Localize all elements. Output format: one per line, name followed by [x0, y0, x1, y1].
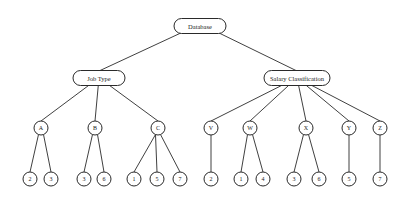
node-Z: Z [373, 121, 387, 135]
tree-nodes: DatabaseJob TypeSalary ClassificationABC… [23, 19, 387, 187]
edge-salary-classification-W [250, 86, 289, 122]
edge-job-type-B [95, 86, 98, 122]
edge-B-leaf-2 [84, 135, 93, 173]
tree-edges [30, 32, 380, 173]
node-label: 6 [103, 176, 106, 182]
edge-X-leaf-10 [294, 135, 304, 173]
node-label: 5 [348, 176, 351, 182]
edge-salary-classification-X [299, 86, 306, 122]
leaf-node: 6 [312, 172, 326, 186]
node-label: 4 [262, 176, 265, 182]
leaf-node: 2 [204, 172, 218, 186]
leaf-node: 2 [23, 172, 37, 186]
node-label: X [304, 125, 309, 131]
node-label: Z [378, 125, 382, 131]
edge-C-leaf-5 [156, 135, 158, 173]
node-W: W [243, 121, 257, 135]
leaf-node: 3 [44, 172, 58, 186]
node-B: B [88, 121, 102, 135]
node-Y: Y [342, 121, 356, 135]
node-label: 3 [83, 176, 86, 182]
edge-job-type-C [110, 86, 158, 122]
node-label: Y [347, 125, 352, 131]
node-label: 7 [179, 176, 182, 182]
edge-salary-classification-V [211, 86, 282, 122]
node-label: 2 [29, 176, 32, 182]
node-label: 1 [240, 176, 243, 182]
node-job-type: Job Type [73, 71, 125, 86]
edge-database-salary-classification [216, 32, 297, 72]
leaf-node: 4 [256, 172, 270, 186]
leaf-node: 3 [287, 172, 301, 186]
node-label: 6 [318, 176, 321, 182]
node-label: B [93, 125, 97, 131]
node-X: X [299, 121, 313, 135]
node-database: Database [174, 19, 226, 34]
node-salary-classification: Salary Classification [264, 71, 330, 86]
node-label: 7 [379, 176, 382, 182]
node-V: V [204, 121, 218, 135]
node-C: C [151, 121, 165, 135]
leaf-node: 1 [234, 172, 248, 186]
node-label: Job Type [87, 75, 111, 82]
node-label: A [39, 125, 44, 131]
node-label: C [156, 125, 160, 131]
node-label: 5 [156, 176, 159, 182]
leaf-node: 7 [173, 172, 187, 186]
node-label: Database [188, 23, 212, 30]
edge-W-leaf-9 [253, 135, 264, 173]
edge-job-type-A [41, 86, 89, 122]
leaf-node: 3 [77, 172, 91, 186]
edge-X-leaf-11 [309, 135, 320, 173]
leaf-node: 5 [342, 172, 356, 186]
leaf-node: 7 [373, 172, 387, 186]
edge-W-leaf-8 [241, 135, 248, 173]
node-label: 3 [293, 176, 296, 182]
edge-salary-classification-Y [306, 86, 349, 122]
node-label: W [247, 125, 253, 131]
node-label: 1 [133, 176, 136, 182]
node-label: V [209, 125, 214, 131]
node-label: 2 [210, 176, 213, 182]
edge-B-leaf-3 [98, 135, 105, 173]
edge-A-leaf-0 [30, 135, 39, 173]
leaf-node: 5 [150, 172, 164, 186]
tree-diagram: DatabaseJob TypeSalary ClassificationABC… [0, 0, 409, 206]
node-label: Salary Classification [270, 75, 325, 82]
node-label: 3 [50, 176, 53, 182]
edge-database-job-type [99, 32, 184, 72]
edge-A-leaf-1 [44, 135, 52, 173]
leaf-node: 6 [97, 172, 111, 186]
edge-salary-classification-Z [312, 86, 380, 122]
edge-C-leaf-6 [161, 135, 181, 173]
node-A: A [34, 121, 48, 135]
leaf-node: 1 [127, 172, 141, 186]
edge-C-leaf-4 [134, 135, 156, 173]
